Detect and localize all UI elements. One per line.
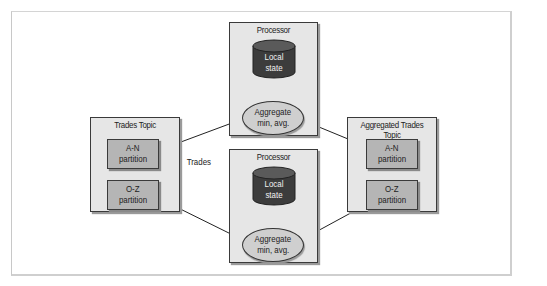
trades-topic-partition-o-z: O-Z partition — [107, 180, 159, 210]
trades-edge-label: Trades — [187, 157, 211, 167]
processor-box-2: Processor Local state Aggregate min, avg… — [229, 149, 318, 263]
aggregated-topic-partition-o-z: O-Z partition — [366, 180, 418, 210]
processor-title: Processor — [235, 25, 312, 35]
aggregate-operation: Aggregate min, avg. — [242, 101, 304, 135]
trades-topic-partition-a-n: A-N partition — [107, 139, 159, 169]
trades-topic-title: Trades Topic — [96, 120, 173, 130]
local-state-db-icon: Local state — [252, 166, 296, 206]
processor-title: Processor — [235, 152, 312, 162]
processor-box-1: Processor Local state Aggregate min, avg… — [229, 22, 318, 136]
aggregated-trades-topic-box: Aggregated Trades Topic A-N partition O-… — [347, 117, 437, 212]
trades-topic-box: Trades Topic A-N partition O-Z partition — [90, 117, 180, 212]
aggregated-topic-partition-a-n: A-N partition — [366, 139, 418, 169]
aggregated-trades-topic-title: Aggregated Trades Topic — [353, 120, 430, 140]
aggregate-operation: Aggregate min, avg. — [242, 228, 304, 262]
local-state-db-icon: Local state — [252, 39, 296, 79]
